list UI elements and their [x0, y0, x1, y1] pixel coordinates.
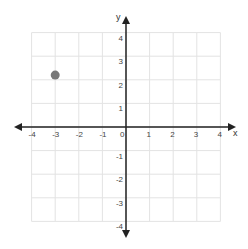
x-tick-label: 1 — [147, 130, 152, 139]
y-tick-label: 2 — [119, 81, 124, 90]
y-tick-label: -3 — [116, 199, 124, 208]
coordinate-plane: x y -4-3-2-101234 4321-1-2-3-4 — [0, 0, 248, 249]
x-tick-label: -2 — [76, 130, 84, 139]
x-tick-label: -3 — [52, 130, 60, 139]
x-tick-label: 0 — [120, 130, 125, 139]
x-tick-label: -4 — [29, 130, 37, 139]
y-tick-label: 3 — [119, 57, 124, 66]
y-tick-label: -2 — [116, 175, 124, 184]
x-tick-label: 4 — [217, 130, 222, 139]
y-tick-label: 1 — [119, 104, 124, 113]
y-tick-label: 4 — [119, 34, 124, 43]
data-points — [51, 71, 60, 80]
y-axis-label: y — [116, 12, 121, 22]
y-tick-label: -1 — [116, 152, 124, 161]
data-point — [51, 71, 60, 80]
x-tick-label: -1 — [99, 130, 107, 139]
x-axis-left-arrow-icon — [14, 123, 22, 131]
x-tick-label: 3 — [194, 130, 199, 139]
y-tick-label: -4 — [116, 222, 124, 231]
axes — [14, 16, 236, 238]
y-axis-up-arrow-icon — [122, 16, 130, 24]
x-tick-label: 2 — [170, 130, 175, 139]
y-axis-down-arrow-icon — [122, 230, 130, 238]
x-axis-label: x — [233, 128, 238, 138]
